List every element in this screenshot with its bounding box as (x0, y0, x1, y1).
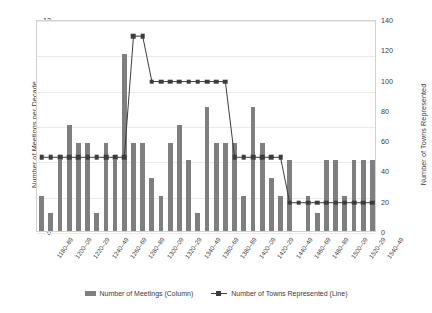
x-tick-label: 1300–09 (165, 236, 185, 260)
x-tick-label: 1260–69 (128, 236, 148, 260)
line-marker (223, 79, 228, 84)
x-tick-label: 1500–09 (349, 236, 369, 260)
line-marker (150, 79, 155, 84)
y-tick-label-right: 0 (381, 228, 411, 237)
plot-area (36, 20, 376, 232)
line-marker (85, 155, 90, 160)
line-marker (104, 155, 109, 160)
y-tick-label-right: 20 (381, 198, 411, 207)
line-marker (343, 200, 348, 205)
line-marker (260, 155, 265, 160)
line-marker (131, 34, 136, 39)
line-marker (48, 155, 53, 160)
x-tick-label: 1340–49 (202, 236, 222, 260)
line-marker (140, 34, 145, 39)
x-tick-label: 1440–49 (294, 236, 314, 260)
y-tick-label-right: 80 (381, 107, 411, 116)
line-marker (196, 79, 201, 84)
x-tick-label: 1480–89 (331, 236, 351, 260)
y-tick-label-right: 60 (381, 137, 411, 146)
line-marker (205, 79, 210, 84)
legend-label-towns: Number of Towns Represented (Line) (231, 290, 347, 297)
x-tick-label: 1200–09 (73, 236, 93, 260)
line-marker (297, 200, 302, 205)
x-tick-label: 1540–49 (386, 236, 406, 260)
line-marker (94, 155, 99, 160)
line-marker (370, 200, 375, 205)
line-marker (251, 155, 256, 160)
y-axis-right-title: Number of Towns Represented (419, 50, 428, 220)
line-marker (186, 79, 191, 84)
line-marker (39, 155, 44, 160)
line-marker (168, 79, 173, 84)
line-marker (159, 79, 164, 84)
line-marker (232, 155, 237, 160)
legend-item-towns: Number of Towns Represented (Line) (211, 290, 347, 297)
line-marker (113, 155, 118, 160)
x-tick-label: 1380–89 (239, 236, 259, 260)
column-swatch-icon (85, 291, 96, 296)
y-tick-label-right: 140 (381, 16, 411, 25)
x-axis-ticks: 1180–891200–091220–291240–491260–691280–… (36, 234, 376, 280)
y-tick-label-right: 40 (381, 167, 411, 176)
x-tick-label: 1180–89 (55, 236, 74, 259)
line-marker (315, 200, 320, 205)
line-swatch-icon (211, 291, 227, 296)
line-marker (76, 155, 81, 160)
x-tick-label: 1220–29 (92, 236, 112, 260)
line-marker (67, 155, 72, 160)
x-tick-label: 1360–69 (220, 236, 240, 260)
line-marker (122, 155, 127, 160)
x-tick-label: 1280–89 (147, 236, 167, 260)
x-tick-label: 1420–29 (275, 236, 295, 260)
line-marker (177, 79, 182, 84)
chart-legend: Number of Meetings (Column) Number of To… (0, 290, 432, 297)
line-marker (241, 155, 246, 160)
line-marker (269, 155, 274, 160)
line-marker (324, 200, 329, 205)
line-marker (287, 200, 292, 205)
x-tick-label: 1460–69 (312, 236, 332, 260)
line-marker (361, 200, 366, 205)
line-marker (58, 155, 63, 160)
line-marker (278, 155, 283, 160)
x-tick-label: 1240–49 (110, 236, 130, 260)
y-tick-label-right: 100 (381, 77, 411, 86)
x-tick-label: 1520–29 (367, 236, 387, 260)
legend-label-meetings: Number of Meetings (Column) (100, 290, 194, 297)
legend-item-meetings: Number of Meetings (Column) (85, 290, 194, 297)
line-marker (333, 200, 338, 205)
chart-container: Number of Meetings per Decade Number of … (0, 0, 432, 313)
line-marker (214, 79, 219, 84)
line-marker (306, 200, 311, 205)
line-marker (352, 200, 357, 205)
y-tick-label-right: 120 (381, 46, 411, 55)
x-tick-label: 1400–09 (257, 236, 277, 260)
x-tick-label: 1320–29 (184, 236, 204, 260)
